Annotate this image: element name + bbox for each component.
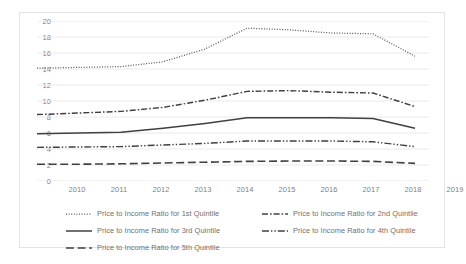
x-axis-tick-label: 2010	[68, 185, 85, 194]
plot-area	[37, 21, 429, 181]
legend-entry-5[interactable]: Price to Income Ratio for 5th Quintile	[66, 243, 262, 252]
legend-label: Price to Income Ratio for 3rd Quintile	[97, 226, 220, 235]
legend-entry-3[interactable]: Price to Income Ratio for 3rd Quintile	[66, 226, 262, 235]
series-line-5	[37, 161, 415, 164]
x-axis-tick-label: 2014	[236, 185, 253, 194]
legend-entry-2[interactable]: Price to Income Ratio for 2nd Quintile	[262, 209, 416, 218]
x-axis-tick-label: 2018	[404, 185, 421, 194]
x-axis-tick-label: 2013	[194, 185, 211, 194]
legend-swatch-long-dash	[66, 244, 92, 252]
legend-swatch-solid	[66, 227, 92, 235]
legend-swatch-dash-dot	[262, 210, 288, 218]
series-line-1	[37, 28, 415, 68]
x-axis-tick-label: 2011	[111, 185, 128, 194]
x-axis: 2010201120122013201420152016201720182019	[57, 185, 429, 199]
x-axis-tick-label: 2016	[320, 185, 337, 194]
series-lines	[37, 21, 429, 181]
x-axis-tick-label: 2019	[446, 185, 463, 194]
series-line-3	[37, 118, 415, 134]
legend-row: Price to Income Ratio for 1st QuintilePr…	[66, 205, 416, 222]
legend-entry-4[interactable]: Price to Income Ratio for 4th Quintile	[262, 226, 416, 235]
chart-container: 20181614121086420 2010201120122013201420…	[19, 12, 445, 248]
chart-legend: Price to Income Ratio for 1st QuintilePr…	[66, 205, 416, 256]
legend-swatch-dotted	[66, 210, 92, 218]
series-line-4	[37, 141, 415, 147]
x-axis-tick-label: 2012	[152, 185, 169, 194]
legend-label: Price to Income Ratio for 5th Quintile	[97, 243, 220, 252]
legend-row: Price to Income Ratio for 3rd QuintilePr…	[66, 222, 416, 239]
legend-label: Price to Income Ratio for 4th Quintile	[293, 226, 416, 235]
legend-entry-1[interactable]: Price to Income Ratio for 1st Quintile	[66, 209, 262, 218]
legend-row: Price to Income Ratio for 5th Quintile	[66, 239, 416, 256]
series-line-2	[37, 91, 415, 115]
x-axis-tick-label: 2015	[278, 185, 295, 194]
legend-label: Price to Income Ratio for 2nd Quintile	[293, 209, 418, 218]
legend-swatch-dash-dot-dot	[262, 227, 288, 235]
x-axis-tick-label: 2017	[362, 185, 379, 194]
legend-label: Price to Income Ratio for 1st Quintile	[97, 209, 219, 218]
